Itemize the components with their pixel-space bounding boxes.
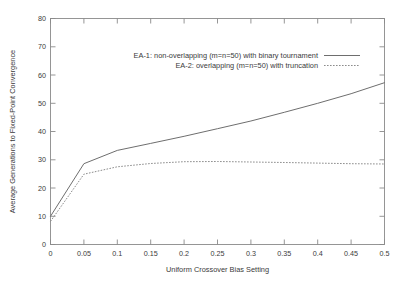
x-tick-label: 0.2	[179, 249, 189, 258]
x-tick-label: 0.4	[313, 249, 323, 258]
y-tick-label: 20	[38, 184, 46, 193]
series-line-ea1	[51, 83, 385, 217]
x-tick-label: 0.1	[112, 249, 122, 258]
x-tick-label: 0.3	[246, 249, 256, 258]
y-tick-label: 70	[38, 42, 46, 51]
y-tick-label: 50	[38, 99, 46, 108]
x-tick-label: 0.15	[144, 249, 158, 258]
x-tick-label: 0.45	[344, 249, 358, 258]
x-tick-label: 0.5	[380, 249, 390, 258]
x-tick-label: 0	[49, 249, 53, 258]
legend-label-ea2: EA-2: overlapping (m=n=50) with truncati…	[175, 61, 318, 70]
y-tick-label: 40	[38, 127, 46, 136]
y-tick-label: 30	[38, 155, 46, 164]
x-axis-title: Uniform Crossover Bias Setting	[166, 265, 269, 274]
series-line-ea2	[51, 162, 385, 222]
y-tick-labels: 0 10 20 30 40 50 60 70 80	[38, 14, 46, 249]
x-tick-label: 0.05	[77, 249, 91, 258]
legend-label-ea1: EA-1: non-overlapping (m=n=50) with bina…	[134, 51, 318, 60]
y-tick-label: 60	[38, 71, 46, 80]
x-tick-label: 0.25	[211, 249, 225, 258]
y-tick-label: 80	[38, 14, 46, 23]
y-tick-label: 0	[42, 240, 46, 249]
line-chart: 0 10 20 30 40 50 60 70 80 0 0.05 0.1 0.1…	[0, 0, 407, 287]
x-tick-labels: 0 0.05 0.1 0.15 0.2 0.25 0.3 0.35 0.4 0.…	[49, 249, 390, 258]
legend: EA-1: non-overlapping (m=n=50) with bina…	[134, 51, 360, 70]
x-tick-label: 0.35	[277, 249, 291, 258]
y-axis-title: Average Generations to Fixed-Point Conve…	[8, 50, 17, 213]
y-tick-label: 10	[38, 212, 46, 221]
chart-page: 0 10 20 30 40 50 60 70 80 0 0.05 0.1 0.1…	[0, 0, 407, 287]
